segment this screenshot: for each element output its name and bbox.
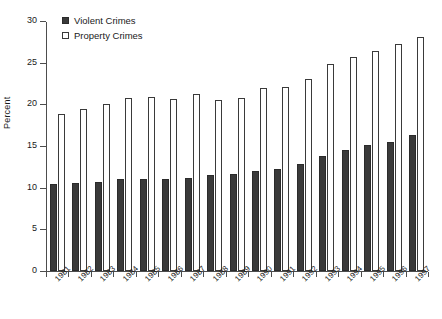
- y-axis-tick: 15: [40, 146, 46, 147]
- y-axis-tick: 25: [40, 63, 46, 64]
- bar-property-1993: [327, 64, 334, 271]
- bar-violent-1995: [364, 145, 371, 271]
- y-axis-tick: 30: [40, 21, 46, 22]
- bar-chart: Percent Violent Crimes Property Crimes 0…: [0, 0, 442, 319]
- bar-violent-1990: [252, 171, 259, 271]
- bar-violent-1991: [274, 169, 281, 271]
- bar-property-1996: [395, 44, 402, 271]
- y-axis-tick-label: 20: [27, 98, 37, 108]
- y-axis-label: Percent: [2, 39, 12, 129]
- bar-violent-1997: [409, 135, 416, 271]
- bar-property-1997: [417, 37, 424, 271]
- y-axis-tick: 10: [40, 188, 46, 189]
- bar-property-1990: [260, 88, 267, 271]
- bar-violent-1981: [50, 184, 57, 272]
- bar-violent-1984: [117, 179, 124, 272]
- y-axis-tick-label: 15: [27, 140, 37, 150]
- bar-violent-1993: [319, 156, 326, 271]
- bar-property-1984: [125, 98, 132, 271]
- bar-property-1981: [58, 114, 65, 271]
- bar-property-1991: [282, 87, 289, 271]
- x-axis-tick: [46, 272, 47, 277]
- y-axis-tick-label: 0: [32, 265, 37, 275]
- bar-violent-1988: [207, 175, 214, 271]
- bar-violent-1992: [297, 164, 304, 272]
- bar-violent-1989: [230, 174, 237, 272]
- y-axis-tick: 5: [40, 229, 46, 230]
- y-axis-tick: 20: [40, 104, 46, 105]
- bar-violent-1994: [342, 150, 349, 271]
- bar-violent-1987: [185, 178, 192, 271]
- bar-violent-1985: [140, 179, 147, 272]
- bar-property-1983: [103, 104, 110, 271]
- y-axis-tick-label: 10: [27, 182, 37, 192]
- bar-property-1985: [148, 97, 155, 271]
- y-axis-tick-label: 30: [27, 15, 37, 25]
- bar-violent-1983: [95, 182, 102, 271]
- bar-property-1995: [372, 51, 379, 271]
- bar-property-1994: [350, 57, 357, 271]
- y-axis-tick-label: 25: [27, 57, 37, 67]
- plot-area: 051015202530: [46, 22, 428, 272]
- bar-property-1982: [80, 109, 87, 271]
- bar-property-1992: [305, 79, 312, 272]
- bar-property-1989: [238, 98, 245, 271]
- bar-violent-1996: [387, 142, 394, 271]
- y-axis-tick-label: 5: [32, 223, 37, 233]
- bar-property-1987: [193, 94, 200, 271]
- bar-violent-1986: [162, 179, 169, 271]
- y-axis-line: [46, 22, 47, 272]
- bar-property-1986: [170, 99, 177, 272]
- bar-property-1988: [215, 100, 222, 271]
- bar-violent-1982: [72, 183, 79, 271]
